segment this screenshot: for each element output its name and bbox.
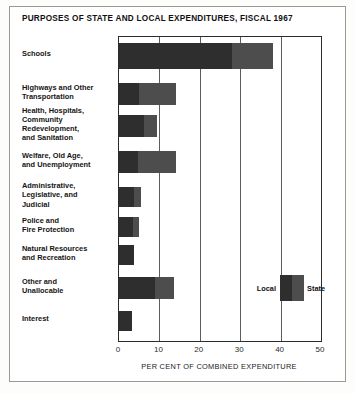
category-label-line: Judicial bbox=[22, 200, 116, 209]
category-label-line: Other and bbox=[22, 277, 116, 286]
legend-swatch-local bbox=[280, 275, 292, 301]
category-label-line: Highways and Other bbox=[22, 83, 116, 92]
category-label: Highways and OtherTransportation bbox=[22, 83, 116, 101]
bar-segment-state bbox=[155, 277, 173, 299]
category-label-line: Fire Protection bbox=[22, 225, 116, 234]
category-label: Police andFire Protection bbox=[22, 216, 116, 234]
category-label: Schools bbox=[22, 49, 116, 58]
bar-segment-local bbox=[119, 311, 132, 331]
bar-segment-state bbox=[133, 217, 139, 237]
category-label-line: Interest bbox=[22, 314, 116, 323]
bar-row bbox=[119, 245, 321, 265]
bar-row bbox=[119, 187, 321, 207]
bar-row bbox=[119, 151, 321, 173]
category-label: Administrative,Legislative, andJudicial bbox=[22, 181, 116, 209]
bar-segment-state bbox=[144, 115, 157, 137]
bar-segment-local bbox=[119, 217, 133, 237]
bar-segment-state bbox=[139, 83, 175, 105]
bar-segment-state bbox=[134, 187, 141, 207]
x-tick-label-40: 40 bbox=[275, 345, 284, 354]
legend-label-local: Local bbox=[246, 284, 276, 293]
category-label: Interest bbox=[22, 314, 116, 323]
bar-segment-local bbox=[119, 245, 134, 265]
category-label-line: Administrative, bbox=[22, 181, 116, 190]
category-label: Health, Hospitals,CommunityRedevelopment… bbox=[22, 106, 116, 143]
bar-row bbox=[119, 43, 321, 69]
bar-segment-local bbox=[119, 43, 232, 69]
bar-segment-local bbox=[119, 187, 134, 207]
category-label-line: Unallocable bbox=[22, 286, 116, 295]
category-label-line: and Unemployment bbox=[22, 160, 116, 169]
bar-segment-local bbox=[119, 151, 138, 173]
category-label-line: Welfare, Old Age, bbox=[22, 151, 116, 160]
bar-row bbox=[119, 311, 321, 331]
category-label-line: Health, Hospitals, bbox=[22, 106, 116, 115]
category-label-line: Community bbox=[22, 115, 116, 124]
x-tick-label-10: 10 bbox=[154, 345, 163, 354]
category-label-line: Police and bbox=[22, 216, 116, 225]
bar-segment-state bbox=[138, 151, 175, 173]
category-label-line: Transportation bbox=[22, 92, 116, 101]
category-label-line: Natural Resources bbox=[22, 244, 116, 253]
bar-row bbox=[119, 115, 321, 137]
category-label-line: and Sanitation bbox=[22, 133, 116, 142]
category-label-line: and Recreation bbox=[22, 253, 116, 262]
category-label-line: Schools bbox=[22, 49, 116, 58]
legend-label-state: State bbox=[307, 284, 325, 293]
x-tick-label-50: 50 bbox=[316, 345, 325, 354]
category-label-line: Redevelopment, bbox=[22, 124, 116, 133]
chart-figure: PURPOSES OF STATE AND LOCAL EXPENDITURES… bbox=[0, 0, 355, 394]
x-tick-label-20: 20 bbox=[194, 345, 203, 354]
bar-segment-state bbox=[232, 43, 272, 69]
bar-row bbox=[119, 217, 321, 237]
bar-segment-local bbox=[119, 83, 139, 105]
x-axis-title: PER CENT OF COMBINED EXPENDITURE bbox=[118, 362, 320, 371]
legend-swatch-state bbox=[292, 275, 304, 301]
category-label: Other andUnallocable bbox=[22, 277, 116, 295]
category-label: Natural Resourcesand Recreation bbox=[22, 244, 116, 262]
x-tick-label-30: 30 bbox=[235, 345, 244, 354]
x-tick-label-0: 0 bbox=[116, 345, 120, 354]
chart-legend: Local State bbox=[268, 275, 316, 301]
category-label: Welfare, Old Age,and Unemployment bbox=[22, 151, 116, 169]
category-label-line: Legislative, and bbox=[22, 190, 116, 199]
bar-segment-local bbox=[119, 277, 155, 299]
bar-segment-local bbox=[119, 115, 144, 137]
chart-title: PURPOSES OF STATE AND LOCAL EXPENDITURES… bbox=[22, 14, 293, 23]
bar-row bbox=[119, 83, 321, 105]
